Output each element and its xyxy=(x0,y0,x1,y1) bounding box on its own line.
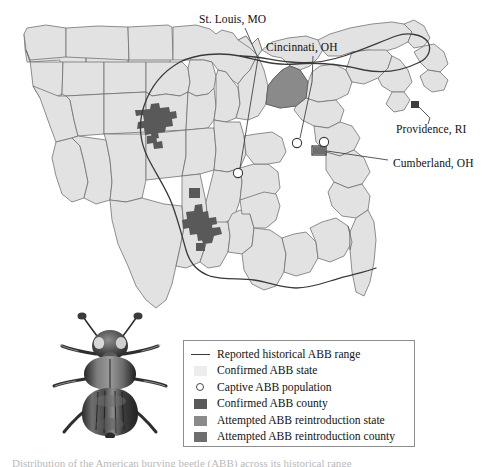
reintroduction-state-ohio xyxy=(266,66,308,108)
confirmed-county-block-island xyxy=(411,101,419,108)
reintroduction-county-cumberland-fill xyxy=(313,147,325,154)
beetle-elytra-spot-lower xyxy=(96,418,124,430)
beetle-antenna-club-right xyxy=(134,312,143,319)
american-burying-beetle-photo xyxy=(48,306,172,438)
legend-item-confirmed-state: Confirmed ABB state xyxy=(184,363,414,380)
beetle-eye-left xyxy=(94,337,104,349)
confirmed-county-marker-kansas xyxy=(189,188,200,198)
beetle-antenna-club-left xyxy=(78,312,87,319)
abb-distribution-figure: St. Louis, MO Cincinnati, OH Providence,… xyxy=(0,0,498,467)
beetle-eye-right xyxy=(116,337,126,349)
callout-label-cincinnati: Cincinnati, OH xyxy=(266,42,338,54)
map-legend: Reported historical ABB range Confirmed … xyxy=(183,340,415,447)
confirmed-county-marker-arkansas-south xyxy=(196,243,205,251)
legend-item-historical-range: Reported historical ABB range xyxy=(184,346,414,363)
legend-item-reintroduction-state: Attempted ABB reintroduction state xyxy=(184,412,414,429)
legend-item-captive-population: Captive ABB population xyxy=(184,379,414,396)
figure-caption-partial: Distribution of the American burying bee… xyxy=(12,458,482,467)
legend-swatch-icon xyxy=(189,396,211,412)
legend-item-confirmed-county: Confirmed ABB county xyxy=(184,396,414,413)
legend-item-reintroduction-county: Attempted ABB reintroduction county xyxy=(184,429,414,446)
legend-label: Confirmed ABB state xyxy=(217,365,317,377)
legend-line-icon xyxy=(189,346,211,362)
captive-population-st-louis xyxy=(233,168,242,177)
legend-swatch-icon xyxy=(189,413,211,429)
callout-label-providence: Providence, RI xyxy=(396,124,466,136)
leader-line-providence xyxy=(418,106,430,124)
captive-population-cincinnati xyxy=(292,138,301,147)
legend-swatch-icon xyxy=(189,429,211,445)
legend-label: Captive ABB population xyxy=(217,382,332,394)
legend-label: Reported historical ABB range xyxy=(217,349,360,361)
legend-swatch-icon xyxy=(189,363,211,379)
callout-label-st-louis: St. Louis, MO xyxy=(199,14,266,26)
legend-label: Attempted ABB reintroduction state xyxy=(217,415,385,427)
legend-label: Attempted ABB reintroduction county xyxy=(217,431,395,443)
legend-label: Confirmed ABB county xyxy=(217,398,328,410)
us-states xyxy=(24,20,448,308)
legend-circle-icon xyxy=(189,379,211,395)
beetle-elytra-spot-upper xyxy=(94,395,126,407)
captive-population-ohio-east xyxy=(319,137,328,146)
callout-label-cumberland: Cumberland, OH xyxy=(393,158,474,170)
